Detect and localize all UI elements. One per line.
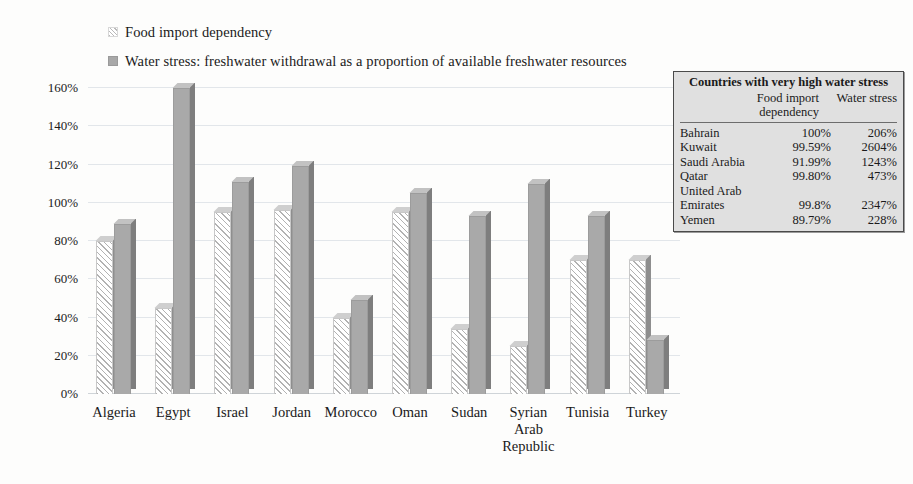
bar-front-face (510, 346, 527, 394)
table-cell-food-import-dependency: 91.99% (769, 155, 831, 170)
bar-groups (88, 88, 680, 394)
bar-water-stress (528, 184, 545, 394)
y-axis-tick-label: 140% (48, 118, 78, 134)
x-axis-category-label: Sudan (440, 404, 499, 421)
bar-front-face (173, 88, 190, 394)
bar-front-face (451, 329, 468, 394)
bar-front-face (629, 260, 646, 394)
table-col-header-line1: Food import (733, 91, 819, 106)
bar-side-face (545, 179, 550, 389)
plot-area (88, 88, 680, 394)
y-axis-tick-label: 80% (54, 233, 78, 249)
bar-front-face (232, 182, 249, 394)
table-col-header-line2: dependency (759, 105, 819, 119)
bar-front-face (410, 193, 427, 394)
bar-food-import-dependency (96, 241, 113, 394)
bar-front-face (292, 166, 309, 394)
table-body: Bahrain100%206%Kuwait99.59%2604%Saudi Ar… (680, 126, 897, 228)
bar-side-face (309, 161, 314, 389)
x-axis-category-label: Oman (380, 404, 439, 421)
x-axis-category-label: Tunisia (558, 404, 617, 421)
bar-water-stress (351, 300, 368, 394)
bar-group (206, 88, 265, 394)
bar-water-stress (588, 216, 605, 394)
bar-side-face (664, 335, 669, 389)
bar-water-stress (647, 340, 664, 394)
table-col-header-food-import-dependency: Food import dependency (733, 91, 819, 120)
bar-front-face (333, 318, 350, 395)
table-cell-food-import-dependency: 100% (769, 126, 831, 141)
legend-item-label: Water stress: freshwater withdrawal as a… (125, 53, 627, 70)
bar-group (88, 88, 147, 394)
bar-food-import-dependency (155, 308, 172, 394)
bar-food-import-dependency (333, 318, 350, 395)
bar-food-import-dependency (451, 329, 468, 394)
bar-group (621, 88, 680, 394)
bar-group (266, 88, 325, 394)
bar-side-face (368, 295, 373, 389)
bar-side-face (190, 83, 195, 389)
high-water-stress-table: Countries with very high water stress Fo… (673, 71, 904, 232)
table-cell-country: Qatar (680, 169, 769, 184)
y-axis-tick-label: 40% (54, 310, 78, 326)
table-row: Qatar99.80%473% (680, 169, 897, 184)
table-cell-country: Kuwait (680, 140, 769, 155)
table-header-divider (680, 122, 897, 123)
table-cell-water-stress: 206% (831, 126, 897, 141)
bar-front-face (351, 300, 368, 394)
table-cell-food-import-dependency: 99.80% (769, 169, 831, 184)
bar-water-stress (114, 224, 131, 394)
bar-side-face (131, 219, 136, 389)
bar-side-face (427, 188, 432, 389)
bar-water-stress (173, 88, 190, 394)
x-axis-category-label: Jordan (262, 404, 321, 421)
bar-food-import-dependency (510, 346, 527, 394)
y-axis-tick-label: 120% (48, 157, 78, 173)
table-cell-country: Bahrain (680, 126, 769, 141)
x-axis-category-label: Morocco (321, 404, 380, 421)
table-row: Bahrain100%206% (680, 126, 897, 141)
bar-front-face (155, 308, 172, 394)
x-axis-category-label: Algeria (84, 404, 143, 421)
y-axis-tick-label: 100% (48, 195, 78, 211)
bar-food-import-dependency (629, 260, 646, 394)
x-axis-category-label: Syrian Arab Republic (499, 404, 558, 455)
bar-front-face (96, 241, 113, 394)
bar-front-face (274, 210, 291, 394)
y-axis-tick-label: 160% (48, 80, 78, 96)
bar-front-face (214, 212, 231, 394)
bar-front-face (570, 260, 587, 394)
bar-side-face (605, 211, 610, 389)
bar-group (325, 88, 384, 394)
table-cell-water-stress: 228% (831, 213, 897, 228)
bar-front-face (528, 184, 545, 394)
bar-group (502, 88, 561, 394)
gray-swatch-icon (108, 56, 118, 66)
legend-item-food-import-dependency: Food import dependency (108, 20, 627, 44)
table-column-headers: Food import dependency Water stress (680, 91, 897, 120)
bar-water-stress (410, 193, 427, 394)
table-row: Kuwait99.59%2604% (680, 140, 897, 155)
table-row: United ArabEmirates99.8%2347% (680, 184, 897, 213)
bar-group (147, 88, 206, 394)
x-axis-category-label: Israel (203, 404, 262, 421)
table-cell-food-import-dependency: 99.8% (769, 198, 831, 213)
table-cell-country-line2: Emirates (680, 198, 769, 213)
table-cell-food-import-dependency: 99.59% (769, 140, 831, 155)
table-row: Yemen89.79%228% (680, 213, 897, 228)
table-col-header-water-stress: Water stress (827, 91, 897, 120)
table-cell-water-stress: 2604% (831, 140, 897, 155)
bar-side-face (249, 177, 254, 389)
bar-front-face (588, 216, 605, 394)
bar-water-stress (469, 216, 486, 394)
bar-group (384, 88, 443, 394)
bar-group (562, 88, 621, 394)
table-cell-food-import-dependency: 89.79% (769, 213, 831, 228)
table-title: Countries with very high water stress (680, 75, 897, 90)
x-axis-category-label: Turkey (617, 404, 676, 421)
y-axis: 0%20%40%60%80%100%120%140%160% (0, 88, 84, 394)
chart-legend: Food import dependency Water stress: fre… (108, 20, 627, 73)
bar-front-face (647, 340, 664, 394)
table-cell-water-stress: 1243% (831, 155, 897, 170)
table-cell-country: Yemen (680, 213, 769, 228)
